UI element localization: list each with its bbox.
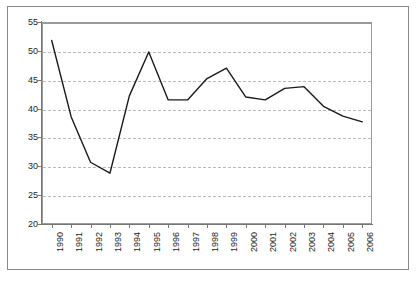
chart-figure: 2025303540455055 19901991199219931994199… [0,0,417,283]
gridlines [43,23,371,223]
x-tick-label-2004: 2004 [327,232,336,252]
x-tick-label-2001: 2001 [269,232,278,252]
x-tick-label-2002: 2002 [289,232,298,252]
x-tick-label-1990: 1990 [56,232,65,252]
plot-area [42,22,372,224]
x-tick-mark-1992 [91,224,92,228]
x-tick-mark-1996 [168,224,169,228]
y-tick-mark-50 [37,51,41,52]
gridline-35 [43,138,371,139]
x-tick-mark-2005 [343,224,344,228]
x-tick-mark-1991 [71,224,72,228]
gridline-40 [43,110,371,111]
x-tick-label-1995: 1995 [153,232,162,252]
x-tick-mark-2002 [285,224,286,228]
x-tick-label-1997: 1997 [192,232,201,252]
y-axis-line [41,21,42,225]
x-tick-label-1998: 1998 [211,232,220,252]
x-tick-mark-1993 [110,224,111,228]
x-tick-label-1994: 1994 [133,232,142,252]
gridline-25 [43,196,371,197]
x-tick-mark-2004 [323,224,324,228]
x-tick-label-1993: 1993 [114,232,123,252]
y-tick-mark-35 [37,137,41,138]
x-tick-mark-2006 [362,224,363,228]
y-tick-mark-45 [37,80,41,81]
x-tick-mark-2000 [246,224,247,228]
x-tick-mark-2001 [265,224,266,228]
x-tick-label-1991: 1991 [75,232,84,252]
x-tick-label-1996: 1996 [172,232,181,252]
x-tick-label-2006: 2006 [366,232,375,252]
x-tick-mark-1999 [226,224,227,228]
gridline-55 [43,23,371,24]
x-tick-mark-1998 [207,224,208,228]
x-tick-mark-1990 [52,224,53,228]
x-tick-label-2000: 2000 [250,232,259,252]
y-tick-mark-30 [37,166,41,167]
x-tick-label-2003: 2003 [308,232,317,252]
gridline-50 [43,52,371,53]
y-tick-mark-20 [37,224,41,225]
x-tick-mark-1997 [188,224,189,228]
x-tick-label-1992: 1992 [95,232,104,252]
gridline-45 [43,81,371,82]
x-tick-mark-2003 [304,224,305,228]
y-tick-mark-55 [37,22,41,23]
x-tick-mark-1994 [129,224,130,228]
y-tick-mark-40 [37,109,41,110]
gridline-30 [43,167,371,168]
x-tick-mark-1995 [149,224,150,228]
y-tick-mark-25 [37,195,41,196]
x-tick-label-1999: 1999 [230,232,239,252]
x-tick-label-2005: 2005 [347,232,356,252]
y-axis-tick-labels: 2025303540455055 [0,0,38,283]
